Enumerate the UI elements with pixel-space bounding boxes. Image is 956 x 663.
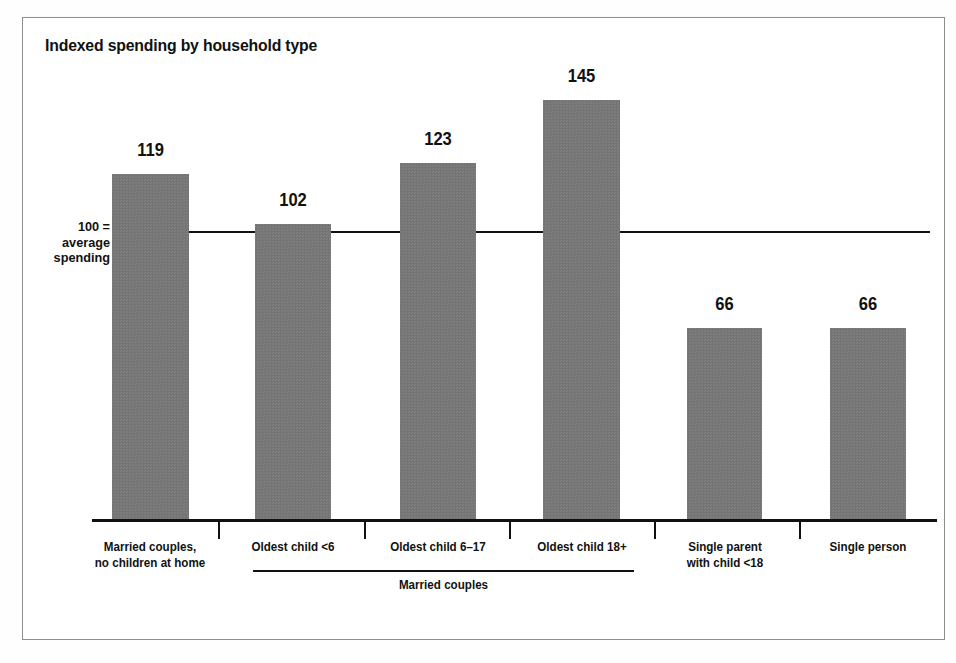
group-bracket-line	[253, 570, 634, 572]
group-bracket-label: Married couples	[266, 578, 620, 592]
plot-area: 100 = average spending 119 102 123 145 6…	[0, 0, 956, 663]
category-label-single-person: Single person	[803, 539, 933, 555]
bar-value-label: 66	[690, 294, 759, 315]
axis-tick	[218, 522, 220, 539]
category-label-married-no-children: Married couples, no children at home	[85, 539, 215, 571]
category-label-single-parent: Single parent with child <18	[660, 539, 790, 571]
axis-tick	[654, 522, 656, 539]
bar-single-parent	[687, 328, 762, 519]
bar-value-label: 123	[403, 129, 473, 150]
bar-value-label: 102	[258, 190, 328, 211]
axis-tick	[799, 522, 801, 539]
reference-line-label: 100 = average spending	[48, 219, 110, 266]
bar-married-no-children	[112, 174, 189, 519]
category-label-oldest-child-18-plus: Oldest child 18+	[517, 539, 647, 555]
bar-oldest-child-18-plus	[543, 100, 620, 519]
bar-oldest-child-under-6	[255, 224, 331, 519]
bar-value-label: 119	[115, 140, 186, 161]
axis-tick	[509, 522, 511, 539]
category-label-oldest-child-under-6: Oldest child <6	[228, 539, 358, 555]
category-label-oldest-child-6-17: Oldest child 6–17	[373, 539, 503, 555]
axis-tick	[364, 522, 366, 539]
bar-oldest-child-6-17	[400, 163, 476, 519]
bar-value-label: 145	[546, 66, 617, 87]
bar-value-label: 66	[833, 294, 903, 315]
chart-figure: Indexed spending by household type 100 =…	[0, 0, 956, 663]
bar-single-person	[830, 328, 906, 519]
